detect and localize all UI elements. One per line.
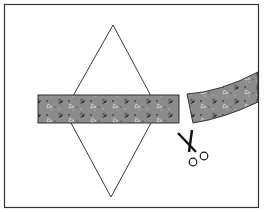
illustration [0,0,273,212]
strip-left-piece [38,95,179,123]
